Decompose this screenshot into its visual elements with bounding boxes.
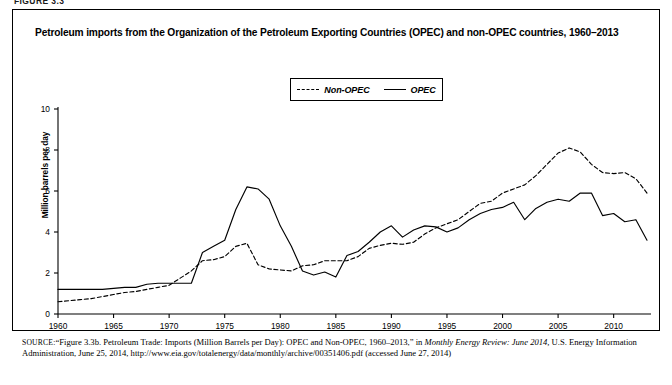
x-axis-tick-label: 2005 [549, 321, 568, 331]
tick-label-layer: 0246810196019651970197519801985199019952… [41, 104, 624, 331]
x-axis-tick-label: 1985 [327, 321, 346, 331]
x-axis-tick-label: 1975 [215, 321, 234, 331]
x-axis-tick-label: 2000 [493, 321, 512, 331]
figure-container: FIGURE 3.3 Petroleum imports from the Or… [0, 0, 672, 385]
y-axis-tick-label: 4 [45, 227, 50, 237]
source-label: SOURCE: [22, 338, 55, 347]
figure-number-label: FIGURE 3.3 [14, 0, 64, 6]
series-layer [58, 148, 647, 302]
x-axis-tick-label: 1990 [382, 321, 401, 331]
figure-border-box: Petroleum imports from the Organization … [12, 9, 660, 331]
y-axis-tick-label: 2 [45, 268, 50, 278]
source-italic-publication: Monthly Energy Review: June 2014, [425, 337, 550, 347]
y-axis-tick-label: 0 [45, 309, 50, 319]
x-axis-tick-label: 2010 [604, 321, 623, 331]
series-line-opec [58, 187, 647, 290]
y-axis-tick-label: 8 [45, 145, 50, 155]
y-axis-tick-label: 10 [41, 104, 51, 114]
y-axis-tick-label: 6 [45, 186, 50, 196]
axis-layer [54, 107, 651, 318]
chart-plot-area: 0246810196019651970197519801985199019952… [13, 10, 661, 332]
source-text-part1: “Figure 3.3b. Petroleum Trade: Imports (… [55, 337, 424, 347]
series-line-non-opec [58, 148, 647, 302]
x-axis-tick-label: 1965 [104, 321, 123, 331]
source-note: SOURCE:“Figure 3.3b. Petroleum Trade: Im… [22, 337, 658, 360]
x-axis-tick-label: 1995 [438, 321, 457, 331]
x-axis-tick-label: 1970 [160, 321, 179, 331]
x-axis-tick-label: 1960 [49, 321, 68, 331]
x-axis-tick-label: 1980 [271, 321, 290, 331]
